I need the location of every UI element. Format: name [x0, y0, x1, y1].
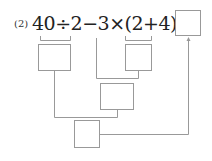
step-box-2-plus-4[interactable] [125, 44, 152, 71]
step-box-3-times[interactable] [100, 83, 134, 110]
step-box-subtract[interactable] [74, 120, 100, 148]
step-box-40-div-2[interactable] [38, 44, 71, 71]
connector-lines [0, 0, 212, 161]
arrow-up-icon [187, 37, 191, 41]
